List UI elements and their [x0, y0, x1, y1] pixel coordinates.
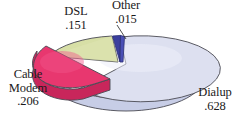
- other-label-name: Other: [104, 0, 148, 13]
- other-label-value: .015: [104, 13, 148, 27]
- dsl-label-name: DSL: [55, 5, 97, 19]
- dialup-label-name: Dialup: [189, 86, 241, 100]
- dsl-label-value: .151: [55, 19, 97, 33]
- slice-label-dsl: DSL .151: [55, 5, 97, 32]
- cable-modem-label-value: .206: [0, 95, 56, 109]
- dialup-label-value: .628: [189, 100, 241, 114]
- slice-label-cable-modem: Cable Modem .206: [0, 68, 56, 109]
- slice-label-dialup: Dialup .628: [189, 86, 241, 113]
- slice-label-other: Other .015: [104, 0, 148, 26]
- pie-chart: Dialup .628 Cable Modem .206 DSL .151 Ot…: [0, 0, 242, 119]
- cable-modem-label-name2: Modem: [0, 82, 56, 96]
- cable-modem-label-name: Cable: [0, 68, 56, 82]
